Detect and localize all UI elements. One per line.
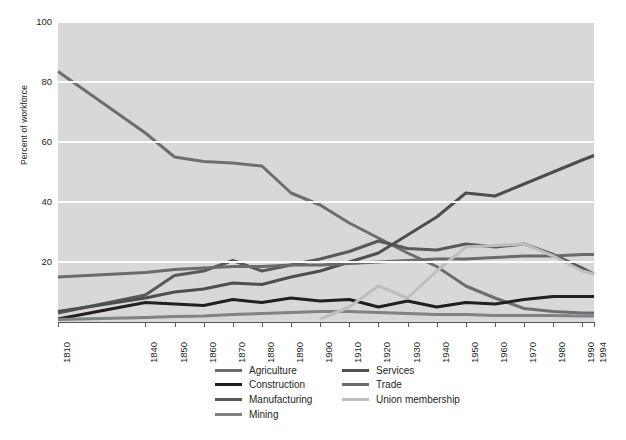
gridline-20 [58,261,594,263]
gridline-40 [58,201,594,203]
legend-item-mining[interactable]: Mining [215,407,312,422]
x-tick-1910 [349,322,350,327]
x-tick-label-1940: 1940 [441,342,451,363]
x-axis-line [58,322,594,323]
x-tick-1990 [582,322,583,327]
y-axis-tick-labels: 20406080100 [22,0,52,440]
x-tick-1920 [378,322,379,327]
gridline-80 [58,81,594,83]
y-tick-label-80: 80 [26,77,52,87]
legend-swatch-icon [342,369,369,372]
x-tick-1890 [291,322,292,327]
x-tick-1950 [466,322,467,327]
y-tick-label-60: 60 [26,137,52,147]
x-tick-1850 [175,322,176,327]
legend-label: Construction [249,379,305,390]
x-tick-label-1870: 1870 [237,342,247,363]
chart-legend: AgricultureConstructionManufacturingMini… [215,363,555,433]
legend-item-union-membership[interactable]: Union membership [342,392,460,407]
x-tick-1980 [553,322,554,327]
gridline-100 [58,21,594,23]
legend-column-2: ServicesTradeUnion membership [342,363,460,407]
y-tick-label-40: 40 [26,197,52,207]
legend-swatch-icon [215,413,242,416]
x-tick-label-1930: 1930 [412,342,422,363]
legend-item-construction[interactable]: Construction [215,378,312,393]
series-line-agriculture [58,72,594,314]
legend-label: Mining [249,409,278,420]
x-tick-label-1900: 1900 [324,342,334,363]
legend-label: Services [376,365,414,376]
plot-area [58,22,594,322]
x-tick-1940 [437,322,438,327]
x-tick-label-1980: 1980 [557,342,567,363]
x-tick-label-1920: 1920 [382,342,392,363]
legend-swatch-icon [342,383,369,386]
x-tick-label-1990: 1990 [586,342,596,363]
x-tick-1860 [204,322,205,327]
y-tick-label-100: 100 [26,17,52,27]
legend-item-services[interactable]: Services [342,363,460,378]
x-tick-1880 [262,322,263,327]
legend-column-1: AgricultureConstructionManufacturingMini… [215,363,312,421]
x-tick-label-1994: 1994 [598,342,608,363]
x-tick-1840 [145,322,146,327]
chart-figure: Percent of workforce 20406080100 1810184… [0,0,626,440]
legend-item-manufacturing[interactable]: Manufacturing [215,392,312,407]
x-tick-1900 [320,322,321,327]
y-tick-label-20: 20 [26,257,52,267]
x-tick-1994 [594,322,595,327]
legend-label: Trade [376,379,402,390]
x-tick-1870 [233,322,234,327]
x-tick-1970 [524,322,525,327]
series-line-services [58,156,594,312]
legend-swatch-icon [342,398,369,401]
legend-label: Agriculture [249,365,297,376]
x-tick-label-1860: 1860 [208,342,218,363]
legend-label: Manufacturing [249,394,312,405]
x-tick-label-1880: 1880 [266,342,276,363]
x-tick-1930 [408,322,409,327]
x-tick-label-1970: 1970 [528,342,538,363]
gridline-60 [58,141,594,143]
x-tick-label-1840: 1840 [149,342,159,363]
x-tick-label-1810: 1810 [62,342,72,363]
legend-swatch-icon [215,398,242,401]
x-tick-label-1960: 1960 [499,342,509,363]
x-tick-1960 [495,322,496,327]
legend-swatch-icon [215,369,242,372]
x-tick-label-1910: 1910 [353,342,363,363]
x-tick-label-1850: 1850 [179,342,189,363]
legend-item-agriculture[interactable]: Agriculture [215,363,312,378]
legend-item-trade[interactable]: Trade [342,378,460,393]
x-tick-label-1890: 1890 [295,342,305,363]
series-lines [58,22,594,322]
legend-label: Union membership [376,394,460,405]
x-tick-1810 [58,322,59,327]
legend-swatch-icon [215,383,242,386]
x-tick-label-1950: 1950 [470,342,480,363]
